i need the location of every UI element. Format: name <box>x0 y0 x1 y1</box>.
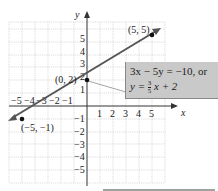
eq-fraction: 3 5 <box>148 80 152 95</box>
svg-text:−5: −5 <box>74 164 85 175</box>
point-5-5 <box>150 33 155 38</box>
y-tick-labels: 543 21 −1−2−3 −4−5 <box>74 33 85 175</box>
eq-suffix: x + 2 <box>154 80 177 92</box>
svg-text:−4: −4 <box>74 151 85 162</box>
svg-text:5: 5 <box>149 108 154 119</box>
svg-text:−1: −1 <box>74 113 85 124</box>
svg-text:4: 4 <box>80 46 85 57</box>
eq-fraction-denominator: 5 <box>148 88 152 95</box>
y-axis-arrow-icon <box>84 11 90 18</box>
equation-box: 3x − 5y = −10, or y = 3 5 x + 2 <box>125 62 218 99</box>
svg-text:−5: −5 <box>11 95 22 106</box>
point-label-neg5-neg1: (−5, −1) <box>21 122 54 134</box>
x-axis-arrow-icon <box>171 103 178 109</box>
svg-text:−2: −2 <box>74 126 85 137</box>
svg-text:−1: −1 <box>62 95 73 106</box>
svg-text:3: 3 <box>123 108 128 119</box>
svg-text:1: 1 <box>97 108 102 119</box>
svg-text:−2: −2 <box>49 95 60 106</box>
y-axis-label: y <box>74 9 80 20</box>
point-label-5-5: (5, 5) <box>128 24 150 36</box>
svg-text:1: 1 <box>80 84 85 95</box>
equation-line-1: 3x − 5y = −10, or <box>130 65 207 77</box>
svg-text:3: 3 <box>80 58 85 69</box>
eq-y-prefix: y = <box>130 80 148 92</box>
annotation-leader <box>88 81 126 92</box>
x-axis-label: x <box>180 107 186 118</box>
svg-text:2: 2 <box>110 108 115 119</box>
svg-text:−3: −3 <box>74 139 85 150</box>
svg-text:4: 4 <box>136 108 141 119</box>
equation-line-2: y = 3 5 x + 2 <box>130 80 177 95</box>
point-neg5-neg1 <box>20 117 25 122</box>
svg-text:5: 5 <box>80 33 85 44</box>
point-label-0-2: (0, 2) <box>55 74 77 86</box>
point-0-2 <box>85 78 90 83</box>
